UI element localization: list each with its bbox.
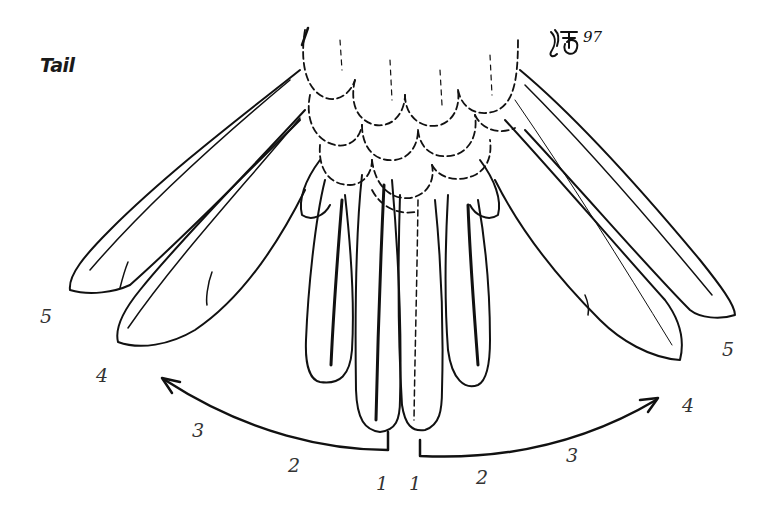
tail-drawing (0, 0, 778, 512)
right-feather-label-5: 5 (722, 340, 734, 359)
artist-signature: 97 (545, 24, 615, 68)
central-feathers (301, 160, 499, 432)
right-feather-label-1: 1 (409, 474, 421, 493)
right-feather-label-2: 2 (476, 468, 488, 487)
left-feather-label-2: 2 (288, 456, 300, 475)
left-feather-label-1: 1 (376, 474, 388, 493)
left-outer-feathers (70, 70, 305, 346)
right-moult-arrow (420, 398, 658, 457)
illustration-title: Tail (40, 54, 75, 76)
signature-mark: 97 (545, 24, 615, 64)
left-feather-label-3: 3 (192, 421, 204, 440)
upper-coverts (302, 28, 518, 213)
tail-illustration: Tail 97 5 4 3 2 1 1 2 3 4 5 (0, 0, 778, 512)
right-outer-feathers (495, 70, 735, 360)
left-feather-label-5: 5 (40, 307, 52, 326)
right-feather-label-4: 4 (682, 396, 694, 415)
right-feather-label-3: 3 (566, 446, 578, 465)
signature-year: 97 (583, 28, 603, 46)
left-feather-label-4: 4 (96, 366, 108, 385)
